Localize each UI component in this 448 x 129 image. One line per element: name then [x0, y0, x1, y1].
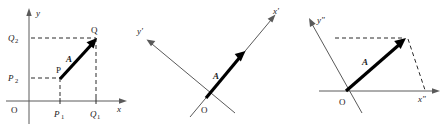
y-double-prime-axis-label: y": [316, 15, 325, 25]
origin-label: O: [339, 97, 346, 107]
vector-coordinate-systems-figure: y x O P Q A P 1 Q 1 P 2 Q 2: [0, 0, 448, 129]
vector-a-label: A: [65, 54, 72, 64]
x-double-prime-axis-arrowhead: [432, 88, 440, 93]
svg-text:1: 1: [97, 113, 100, 120]
tick-label-p1: P 1: [53, 109, 64, 120]
x-axis-label: x: [116, 104, 121, 114]
x-axis-arrowhead: [119, 98, 127, 103]
x-double-prime-axis-label: x": [417, 94, 426, 104]
vector-a: [346, 38, 406, 91]
y-double-prime-axis: [309, 18, 362, 113]
origin-label: O: [201, 105, 208, 115]
y-axis-arrowhead: [26, 8, 31, 16]
svg-text:P: P: [53, 109, 60, 119]
y-double-prime-axis-arrowhead: [309, 18, 316, 27]
svg-text:1: 1: [61, 113, 64, 120]
svg-text:Q: Q: [90, 109, 97, 119]
y-prime-axis: [147, 40, 236, 114]
svg-text:2: 2: [15, 37, 18, 44]
dashed-parallel-to-y: [408, 39, 425, 90]
svg-text:P: P: [7, 73, 14, 83]
x-double-prime-axis: [319, 88, 440, 93]
y-axis-label: y: [35, 8, 40, 18]
panel-rotated-cartesian: y' x' O A: [130, 0, 290, 129]
panel-rectangular-cartesian: y x O P Q A P 1 Q 1 P 2 Q 2: [0, 0, 130, 129]
vector-a-label: A: [212, 71, 219, 81]
x-axis: [6, 98, 127, 103]
tick-label-q1: Q 1: [90, 109, 100, 120]
tick-label-q2: Q 2: [8, 33, 18, 44]
svg-text:Q: Q: [8, 33, 15, 43]
vector-a-label: A: [361, 57, 368, 67]
point-p-label: P: [56, 65, 61, 75]
y-prime-axis-label: y': [136, 26, 144, 36]
y-axis: [26, 8, 31, 124]
svg-text:2: 2: [15, 77, 18, 84]
x-prime-axis-label: x': [272, 6, 280, 16]
point-q-label: Q: [91, 25, 98, 35]
panel-oblique-axes: y" x" O A: [290, 0, 448, 129]
vector-a: [206, 51, 246, 98]
origin-label: O: [11, 105, 18, 115]
tick-label-p2: P 2: [7, 73, 18, 84]
